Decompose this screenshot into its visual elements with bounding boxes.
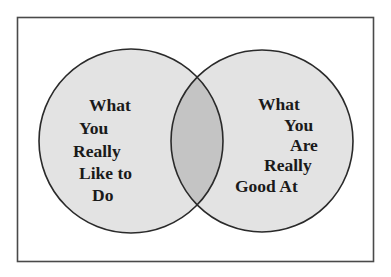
right-label-line: What (258, 94, 300, 114)
venn-diagram: What You Really Like to Do What You Are … (0, 0, 391, 277)
left-label-line: Really (73, 141, 121, 161)
right-label-line: Are (290, 135, 318, 155)
left-label-line: Do (92, 185, 114, 205)
right-label-line: Really (264, 155, 312, 175)
right-label-line: You (284, 115, 313, 135)
left-label-line: You (79, 118, 108, 138)
left-label-line: Like to (79, 163, 132, 183)
right-label-line: Good At (235, 176, 298, 196)
left-label-line: What (89, 95, 131, 115)
